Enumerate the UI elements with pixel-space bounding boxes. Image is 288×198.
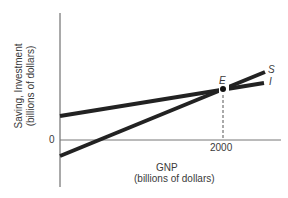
x-tick-2000: 2000 [210,142,232,153]
y-axis-subtitle: (billions of dollars) [25,16,37,156]
saving-series-label: S [268,64,275,75]
equilibrium-label: E [219,75,226,86]
y-tick-zero: 0 [49,134,55,145]
y-axis-label: Saving, Investment (billions of dollars) [13,16,37,156]
y-axis-title: Saving, Investment [13,16,25,156]
saving-line [60,72,265,156]
chart-canvas [0,0,288,198]
investment-line [60,83,264,116]
investment-series-label: I [269,76,272,87]
equilibrium-point [220,86,226,92]
x-axis-title: GNP [156,162,178,173]
x-axis-subtitle: (billions of dollars) [134,173,215,184]
